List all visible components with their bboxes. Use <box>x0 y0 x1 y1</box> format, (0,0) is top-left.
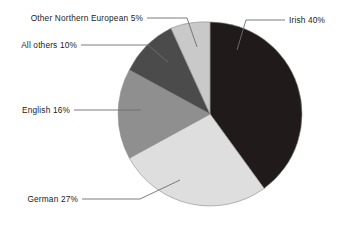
pie-chart: Other Northern European 5% All others 10… <box>0 0 344 226</box>
pie-label-german: German 27% <box>27 194 78 204</box>
pie-label-irish: Irish 40% <box>289 15 326 25</box>
pie-slices <box>118 22 302 206</box>
pie-label-all-others: All others 10% <box>21 40 77 50</box>
pie-label-english: English 16% <box>22 105 70 115</box>
pie-chart-svg: Other Northern European 5% All others 10… <box>0 0 344 226</box>
pie-label-other-northern-european: Other Northern European 5% <box>31 13 144 23</box>
